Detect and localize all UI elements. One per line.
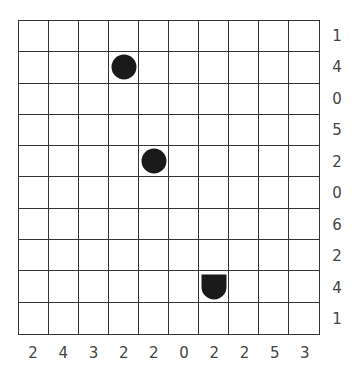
grid-cell[interactable] xyxy=(229,271,259,302)
grid-cell[interactable] xyxy=(109,21,139,52)
grid-cell[interactable] xyxy=(139,303,169,334)
grid-cell[interactable] xyxy=(289,146,319,177)
grid-cell[interactable] xyxy=(289,209,319,240)
grid-cell[interactable] xyxy=(229,52,259,83)
grid-cell[interactable] xyxy=(19,303,49,334)
grid-cell[interactable] xyxy=(109,146,139,177)
grid-cell[interactable] xyxy=(169,240,199,271)
grid-cell[interactable] xyxy=(289,84,319,115)
grid-cell[interactable] xyxy=(139,271,169,302)
grid-cell[interactable] xyxy=(229,303,259,334)
grid-cell[interactable] xyxy=(259,240,289,271)
grid-cell[interactable] xyxy=(169,209,199,240)
grid-cell[interactable] xyxy=(259,303,289,334)
grid-cell[interactable] xyxy=(229,21,259,52)
grid-cell[interactable] xyxy=(229,240,259,271)
grid-cell[interactable] xyxy=(289,115,319,146)
grid-cell[interactable] xyxy=(229,115,259,146)
grid-cell[interactable] xyxy=(229,84,259,115)
grid-cell[interactable] xyxy=(199,303,229,334)
grid-cell[interactable] xyxy=(229,209,259,240)
grid-cell[interactable] xyxy=(79,240,109,271)
grid-cell[interactable] xyxy=(79,209,109,240)
grid-cell[interactable] xyxy=(109,177,139,208)
grid-cell[interactable] xyxy=(19,240,49,271)
grid-cell[interactable] xyxy=(199,146,229,177)
grid-cell[interactable] xyxy=(289,240,319,271)
grid-cell[interactable] xyxy=(109,271,139,302)
grid-cell[interactable] xyxy=(199,115,229,146)
grid-cell[interactable] xyxy=(139,177,169,208)
grid-cell[interactable] xyxy=(229,146,259,177)
grid-cell[interactable] xyxy=(49,209,79,240)
grid-cell[interactable] xyxy=(169,21,199,52)
grid-cell[interactable] xyxy=(199,271,229,302)
grid-cell[interactable] xyxy=(139,209,169,240)
grid-cell[interactable] xyxy=(19,84,49,115)
grid-cell[interactable] xyxy=(79,52,109,83)
grid-cell[interactable] xyxy=(49,115,79,146)
grid-cell[interactable] xyxy=(79,177,109,208)
grid-cell[interactable] xyxy=(259,115,289,146)
grid-cell[interactable] xyxy=(139,21,169,52)
grid-cell[interactable] xyxy=(49,271,79,302)
grid-cell[interactable] xyxy=(139,240,169,271)
grid-cell[interactable] xyxy=(169,303,199,334)
grid-cell[interactable] xyxy=(289,177,319,208)
grid-cell[interactable] xyxy=(109,303,139,334)
grid-cell[interactable] xyxy=(19,21,49,52)
grid-cell[interactable] xyxy=(109,52,139,83)
grid-cell[interactable] xyxy=(289,271,319,302)
grid-cell[interactable] xyxy=(19,209,49,240)
grid-cell[interactable] xyxy=(199,84,229,115)
grid-cell[interactable] xyxy=(289,303,319,334)
grid-cell[interactable] xyxy=(199,209,229,240)
grid-cell[interactable] xyxy=(259,52,289,83)
grid-cell[interactable] xyxy=(49,240,79,271)
grid-cell[interactable] xyxy=(49,52,79,83)
grid-cell[interactable] xyxy=(169,271,199,302)
grid-cell[interactable] xyxy=(199,52,229,83)
grid-cell[interactable] xyxy=(169,177,199,208)
grid-cell[interactable] xyxy=(169,52,199,83)
grid-cell[interactable] xyxy=(79,146,109,177)
grid-cell[interactable] xyxy=(139,84,169,115)
grid-cell[interactable] xyxy=(199,177,229,208)
grid-cell[interactable] xyxy=(229,177,259,208)
grid-cell[interactable] xyxy=(169,115,199,146)
grid-cell[interactable] xyxy=(79,21,109,52)
grid-cell[interactable] xyxy=(109,115,139,146)
grid-cell[interactable] xyxy=(79,84,109,115)
grid-cell[interactable] xyxy=(49,84,79,115)
grid-cell[interactable] xyxy=(169,84,199,115)
grid-cell[interactable] xyxy=(169,146,199,177)
grid-cell[interactable] xyxy=(259,209,289,240)
grid-cell[interactable] xyxy=(19,52,49,83)
grid-cell[interactable] xyxy=(139,52,169,83)
grid-cell[interactable] xyxy=(79,303,109,334)
grid-cell[interactable] xyxy=(109,84,139,115)
grid-cell[interactable] xyxy=(289,21,319,52)
grid-cell[interactable] xyxy=(49,21,79,52)
grid-cell[interactable] xyxy=(49,146,79,177)
grid-cell[interactable] xyxy=(199,21,229,52)
grid-cell[interactable] xyxy=(139,115,169,146)
grid-cell[interactable] xyxy=(259,177,289,208)
grid-cell[interactable] xyxy=(109,240,139,271)
grid-cell[interactable] xyxy=(259,271,289,302)
grid-cell[interactable] xyxy=(139,146,169,177)
grid-cell[interactable] xyxy=(109,209,139,240)
grid-cell[interactable] xyxy=(79,271,109,302)
grid-cell[interactable] xyxy=(199,240,229,271)
grid-cell[interactable] xyxy=(49,303,79,334)
grid-cell[interactable] xyxy=(19,177,49,208)
grid-cell[interactable] xyxy=(289,52,319,83)
grid-cell[interactable] xyxy=(19,271,49,302)
grid-cell[interactable] xyxy=(49,177,79,208)
grid-cell[interactable] xyxy=(259,146,289,177)
grid-cell[interactable] xyxy=(259,21,289,52)
grid-cell[interactable] xyxy=(19,115,49,146)
grid-cell[interactable] xyxy=(19,146,49,177)
grid-cell[interactable] xyxy=(259,84,289,115)
grid-cell[interactable] xyxy=(79,115,109,146)
